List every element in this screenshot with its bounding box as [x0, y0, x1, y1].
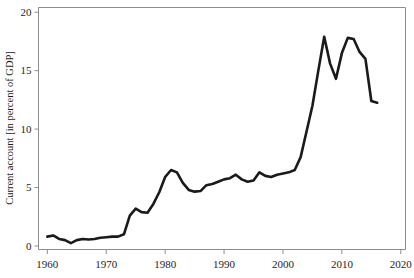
y-tick-label: 10 [21, 123, 33, 135]
y-axis-title: Current account [in percent of GDP] [4, 51, 15, 205]
x-tick-label: 1970 [95, 258, 118, 270]
y-tick-label: 20 [21, 6, 33, 18]
x-tick-label: 2000 [272, 258, 295, 270]
y-tick-label: 15 [21, 64, 33, 76]
chart-background [0, 0, 414, 278]
x-tick-label: 2010 [331, 258, 354, 270]
y-tick-label: 5 [26, 181, 32, 193]
x-tick-label: 2020 [390, 258, 413, 270]
y-tick-label: 0 [26, 240, 32, 252]
x-tick-label: 1960 [36, 258, 59, 270]
x-tick-label: 1980 [154, 258, 177, 270]
chart-container: 05101520 1960197019801990200020102020 Cu… [0, 0, 414, 278]
current-account-line-chart: 05101520 1960197019801990200020102020 Cu… [0, 0, 414, 278]
x-tick-label: 1990 [213, 258, 236, 270]
